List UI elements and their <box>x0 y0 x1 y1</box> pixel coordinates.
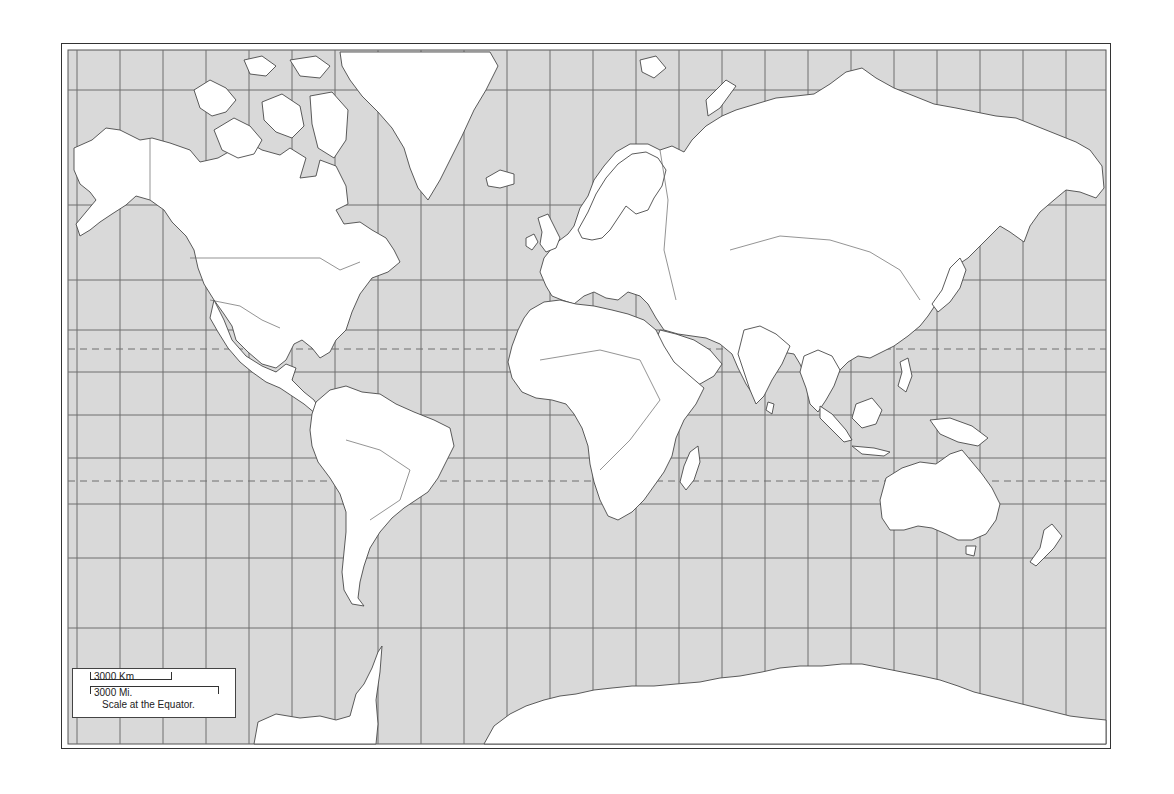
mi-scale-label: 3000 Mi. <box>94 687 132 698</box>
land-tasmania <box>966 546 976 556</box>
km-scale-label: 3000 Km <box>94 671 134 682</box>
scale-legend: 3000 Km 3000 Mi. Scale at the Equator. <box>72 668 236 718</box>
scale-caption: Scale at the Equator. <box>102 699 195 710</box>
